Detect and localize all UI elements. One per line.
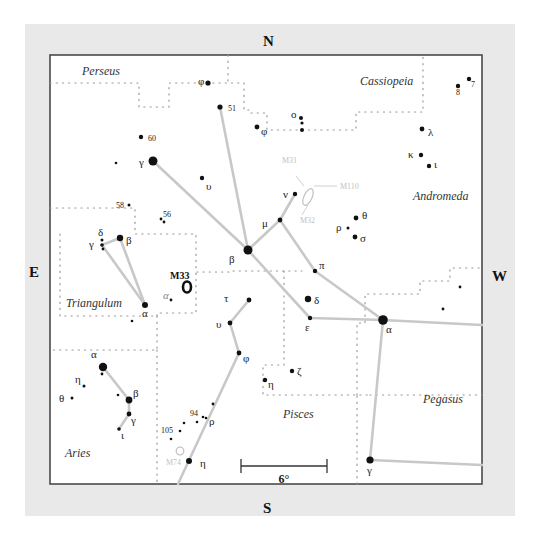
star-label: υ	[216, 318, 222, 330]
star-label: υ	[206, 180, 212, 192]
constellation-name: Pisces	[282, 407, 314, 421]
constellation-name: Andromeda	[412, 189, 469, 203]
constellation-name: Perseus	[81, 64, 120, 78]
star-psc-94	[202, 416, 205, 419]
star-tri-gamma2	[102, 248, 105, 251]
constellation-name: Cassiopeia	[360, 74, 413, 88]
star-label: θ	[59, 392, 64, 404]
star-label: φ	[261, 125, 267, 137]
star-label: β	[229, 253, 235, 265]
star-ari-theta	[71, 397, 74, 400]
star-ari-eta	[83, 385, 86, 388]
star-ari-alpha	[99, 363, 107, 371]
star-and-kappa	[419, 153, 423, 157]
star-label: φ	[198, 75, 204, 87]
dso-label: M31	[282, 156, 297, 165]
star-label: η	[268, 378, 274, 390]
star-per-60	[139, 135, 143, 139]
star-psc-dot2	[196, 421, 199, 424]
star-psc-phi	[237, 351, 242, 356]
star-tri-56b	[163, 221, 166, 224]
star-label: 56	[163, 210, 171, 219]
star-tri-delta	[101, 239, 104, 242]
constellation-name: Triangulum	[66, 296, 122, 310]
star-label: 60	[148, 134, 156, 143]
star-tri-alpha-small	[170, 299, 173, 302]
star-cas-omicron1	[299, 116, 303, 120]
star-psc-zeta	[290, 369, 294, 373]
star-ari-beta	[126, 397, 133, 404]
star-psc-eta	[186, 458, 192, 464]
star-and-lambda	[420, 127, 425, 132]
constellation-name: Aries	[64, 446, 91, 460]
star-label: γ	[130, 414, 136, 426]
star-label: λ	[428, 126, 434, 138]
dso-label: M33	[170, 270, 189, 281]
star-label: τ	[224, 292, 229, 304]
star-label: ο	[291, 108, 297, 120]
star-label: 8	[456, 88, 460, 97]
star-psc-eta-n	[263, 378, 267, 382]
star-label: ε	[305, 321, 310, 333]
star-and-epsilon	[308, 316, 312, 320]
star-label: ν	[283, 188, 288, 200]
star-and-beta	[244, 246, 253, 255]
star-label: γ	[366, 464, 372, 476]
star-and-iota	[427, 164, 431, 168]
star-label: ζ	[297, 365, 302, 378]
star-label: η	[200, 457, 206, 469]
star-label: 51	[228, 104, 236, 113]
star-tri-56a	[160, 218, 163, 221]
star-label: 94	[190, 409, 198, 418]
star-and-mu	[278, 218, 283, 223]
star-cas-omicron3	[300, 128, 304, 132]
star-label: α	[386, 323, 392, 335]
star-label: ι	[434, 158, 437, 170]
star-psc-105	[179, 430, 182, 433]
compass-south: S	[263, 500, 271, 517]
star-label: β	[126, 234, 132, 246]
star-per-phi	[205, 80, 210, 85]
star-ari-dot1	[117, 394, 120, 397]
star-label: η	[75, 373, 81, 385]
star-and-phi	[255, 125, 260, 130]
star-and-nu	[293, 192, 297, 196]
star-and-delta	[305, 296, 311, 302]
star-psc-dot3	[183, 422, 186, 425]
star-label: κ	[408, 148, 414, 160]
dso-label: M32	[300, 216, 315, 225]
star-label: φ	[243, 352, 249, 364]
star-and-rho	[347, 227, 350, 230]
star-and-gamma	[149, 157, 158, 166]
star-label: γ	[88, 238, 94, 250]
star-tri-58	[128, 204, 131, 207]
star-label: α	[142, 307, 148, 319]
star-per-51	[217, 104, 222, 109]
star-ari-alpha-dot	[101, 373, 104, 376]
star-psc-upsilon	[228, 321, 233, 326]
star-label: β	[133, 387, 139, 399]
star-peg-dot2	[442, 308, 445, 311]
star-psc-dot1	[212, 403, 215, 406]
star-label: δ	[98, 226, 103, 238]
star-and-sigma	[353, 235, 358, 240]
star-peg-gamma	[366, 456, 373, 463]
star-label: ρ	[336, 221, 342, 233]
star-psc-rho	[205, 417, 208, 420]
star-label: ρ	[209, 415, 215, 427]
star-and-pi	[313, 269, 317, 273]
star-chart: M33M31M32M110M74 φ5160γυφολκι87νμθρσβπδε…	[0, 0, 540, 541]
star-label: ι	[121, 429, 124, 441]
star-label: δ	[314, 294, 319, 306]
star-label: π	[319, 259, 325, 271]
star-and-theta	[354, 216, 359, 221]
star-label: θ	[362, 209, 367, 221]
dso-label: M110	[340, 182, 359, 191]
star-label: 7	[471, 80, 475, 89]
star-tri-beta	[117, 235, 123, 241]
star-label: σ	[360, 232, 366, 244]
star-psc-dot4	[170, 438, 173, 441]
star-psc-tau	[247, 298, 252, 303]
star-label: γ	[138, 156, 144, 168]
compass-north: N	[263, 33, 274, 50]
